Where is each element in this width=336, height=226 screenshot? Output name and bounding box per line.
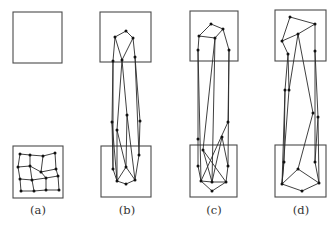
- panel-c-label: (c): [206, 203, 221, 217]
- mesh-node: [221, 136, 224, 139]
- mesh-node: [29, 165, 32, 168]
- mesh-node: [55, 168, 58, 171]
- mesh-node: [111, 121, 114, 124]
- mesh-node: [283, 161, 286, 164]
- mesh-node: [197, 49, 200, 52]
- mesh-edge: [115, 37, 122, 60]
- mesh-node: [281, 40, 284, 43]
- mesh-edge: [117, 167, 126, 181]
- mesh-edge: [117, 130, 126, 167]
- mesh-edge: [199, 36, 215, 38]
- mesh-edge: [30, 166, 41, 172]
- mesh-edge: [223, 29, 229, 50]
- mesh-edge: [298, 24, 315, 34]
- panel-a: [13, 12, 63, 198]
- mesh-node: [139, 120, 142, 123]
- mesh-node: [19, 178, 22, 181]
- mesh-node: [17, 166, 20, 169]
- mesh-edge: [139, 121, 140, 155]
- mesh-edge: [32, 178, 46, 180]
- mesh-edge: [20, 179, 32, 180]
- mesh-node: [116, 129, 119, 132]
- mesh-edge: [18, 154, 20, 167]
- mesh-edge: [55, 153, 56, 169]
- mesh-edge: [20, 154, 30, 155]
- mesh-node: [112, 168, 115, 171]
- mesh-node: [20, 190, 23, 193]
- mesh-node: [54, 152, 57, 155]
- mesh-node: [202, 149, 205, 152]
- mesh-edge: [203, 150, 226, 182]
- mesh-edge: [115, 31, 126, 37]
- top-region-box: [275, 10, 326, 61]
- mesh-edge: [212, 137, 222, 182]
- top-region-box: [190, 11, 238, 61]
- mesh-node: [211, 181, 214, 184]
- mesh-node: [125, 183, 128, 186]
- panel-a-label: (a): [30, 203, 46, 217]
- mesh-edge: [298, 169, 319, 183]
- mesh-node: [116, 180, 119, 183]
- mesh-node: [33, 190, 36, 193]
- panel-b-label: (b): [119, 203, 135, 217]
- mesh-edge: [122, 38, 133, 60]
- mesh-edge: [215, 29, 223, 38]
- mesh-node: [126, 114, 129, 117]
- mesh-node: [227, 121, 230, 124]
- mesh-node: [198, 35, 201, 38]
- mesh-node: [197, 138, 200, 141]
- mesh-edge: [282, 17, 290, 41]
- mesh-edge: [315, 117, 318, 162]
- mesh-node: [114, 36, 117, 39]
- mesh-node: [211, 190, 214, 193]
- mesh-node: [200, 180, 203, 183]
- mesh-edge: [211, 24, 223, 29]
- mesh-node: [222, 28, 225, 31]
- mesh-edge: [298, 113, 313, 169]
- mesh-edge: [282, 169, 298, 184]
- mesh-node: [58, 189, 61, 192]
- mesh-node: [45, 189, 48, 192]
- mesh-edge: [43, 153, 55, 156]
- mesh-node: [125, 166, 128, 169]
- diagram-figure: [0, 0, 336, 226]
- mesh-node: [134, 179, 137, 182]
- mesh-node: [287, 53, 290, 56]
- mesh-edge: [32, 180, 34, 191]
- mesh-edge: [117, 60, 122, 130]
- mesh-node: [112, 60, 115, 63]
- mesh-node: [301, 190, 304, 193]
- mesh-node: [289, 16, 292, 19]
- mesh-node: [40, 171, 43, 174]
- mesh-edge: [199, 24, 211, 36]
- mesh-edge: [113, 37, 115, 61]
- top-region-box: [100, 12, 151, 62]
- mesh-edge: [30, 155, 43, 156]
- mesh-node: [134, 56, 137, 59]
- mesh-edge: [228, 50, 229, 166]
- mesh-edge: [18, 166, 30, 167]
- mesh-node: [312, 112, 315, 115]
- mesh-edge: [20, 179, 21, 191]
- mesh-node: [45, 177, 48, 180]
- mesh-node: [314, 23, 317, 26]
- mesh-node: [314, 50, 317, 53]
- mesh-node: [197, 165, 200, 168]
- top-region-box: [13, 12, 62, 63]
- mesh-node: [138, 154, 141, 157]
- mesh-edge: [226, 166, 228, 182]
- mesh-edge: [282, 41, 288, 54]
- mesh-edge: [201, 181, 212, 191]
- mesh-node: [225, 181, 228, 184]
- mesh-node: [227, 165, 230, 168]
- mesh-node: [29, 154, 32, 157]
- mesh-edge: [30, 166, 32, 180]
- mesh-node: [214, 37, 217, 40]
- panel-c: [190, 11, 238, 197]
- mesh-node: [297, 168, 300, 171]
- mesh-node: [19, 153, 22, 156]
- mesh-edge: [198, 36, 199, 50]
- mesh-edge: [201, 181, 212, 182]
- mesh-edge: [212, 182, 226, 191]
- mesh-edge: [290, 17, 315, 24]
